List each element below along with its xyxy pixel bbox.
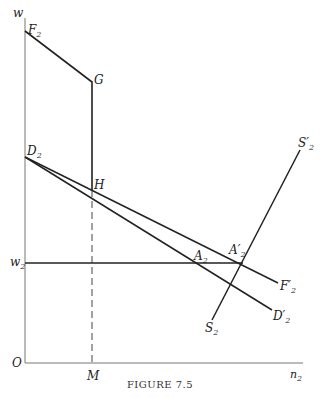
x-axis-label: n2 [290, 368, 302, 383]
diagram-canvas: w F2 G D2 H w2 O M n2 A2 A′2 F′2 D′2 S2 … [0, 0, 320, 398]
label-a2: A2 [193, 249, 208, 265]
label-d2-prime: D′2 [272, 309, 290, 325]
label-d2: D2 [26, 144, 42, 160]
d2-d2prime-line [25, 157, 272, 310]
label-a2-prime: A′2 [228, 243, 245, 259]
label-f2-prime: F′2 [279, 279, 296, 295]
label-f2: F2 [27, 23, 41, 39]
label-origin: O [12, 356, 22, 370]
y-axis-label: w [13, 6, 24, 20]
label-m: M [86, 369, 100, 383]
label-w2: w2 [10, 255, 25, 271]
f2-g-h-curve [25, 31, 92, 190]
label-s2-prime: S′2 [298, 136, 314, 152]
label-g: G [94, 73, 104, 87]
s2-s2prime-line [212, 150, 300, 320]
figure-caption: FIGURE 7.5 [127, 379, 193, 390]
label-h: H [93, 178, 105, 192]
label-s2: S2 [205, 321, 218, 337]
d2-f2prime-line [25, 157, 278, 283]
